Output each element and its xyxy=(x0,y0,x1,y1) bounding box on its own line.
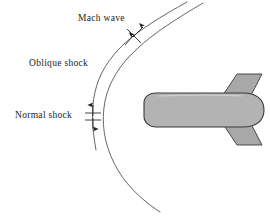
label-mach-wave: Mach wave xyxy=(78,14,125,24)
diagram-canvas xyxy=(0,0,270,217)
mach-wave-arrow-inner xyxy=(125,36,133,45)
projectile xyxy=(144,74,264,145)
mach-wave-annotation xyxy=(125,27,143,45)
fuselage xyxy=(144,93,264,127)
label-oblique-shock: Oblique shock xyxy=(29,59,88,69)
label-normal-shock: Normal shock xyxy=(15,111,72,121)
shock-wave-diagram: Mach wave Oblique shock Normal shock xyxy=(0,0,270,217)
mach-wave-arrow-outer xyxy=(133,27,143,37)
bow-shock-curve xyxy=(92,2,187,150)
